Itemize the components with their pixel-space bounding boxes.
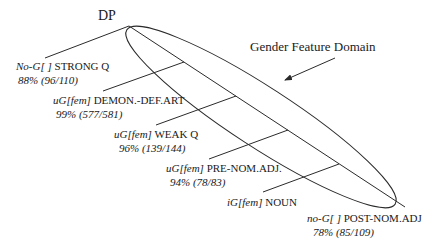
branch-pre-nom-adj bbox=[209, 130, 288, 159]
node-post-nom-adj: no-G[ ] POST-NOM.ADJ bbox=[307, 212, 422, 225]
node-noun: iG[fem] NOUN bbox=[227, 196, 297, 209]
node-category: NOUN bbox=[265, 196, 297, 208]
node-pre-nom-adj: uG[fem] PRE-NOM.ADJ. bbox=[166, 162, 282, 175]
node-feature: uG[fem] bbox=[166, 162, 204, 174]
branch-demon-def-art bbox=[103, 62, 184, 91]
node-category: WEAK Q bbox=[154, 128, 198, 140]
root-node-dp: DP bbox=[98, 8, 116, 24]
node-stat: 94% (78/83) bbox=[170, 176, 225, 189]
node-feature: uG[fem] bbox=[53, 94, 91, 106]
node-category: DEMON.-DEF.ART bbox=[94, 94, 185, 106]
branch-strong-q bbox=[45, 26, 129, 58]
node-stat: 96% (139/144) bbox=[119, 142, 185, 155]
node-category: POST-NOM.ADJ bbox=[344, 212, 422, 224]
tree-diagram bbox=[0, 0, 427, 245]
node-stat: 78% (85/109) bbox=[313, 226, 374, 239]
node-feature: uG[fem] bbox=[114, 128, 152, 140]
node-demon-def-art: uG[fem] DEMON.-DEF.ART bbox=[53, 94, 184, 107]
domain-title: Gender Feature Domain bbox=[250, 39, 376, 54]
node-category: STRONG Q bbox=[55, 60, 110, 72]
node-strong-q: No-G[ ] STRONG Q bbox=[16, 60, 109, 73]
node-stat: 99% (577/581) bbox=[56, 108, 122, 121]
node-category: PRE-NOM.ADJ. bbox=[207, 162, 282, 174]
node-feature: iG[fem] bbox=[227, 196, 262, 208]
node-feature: no-G[ ] bbox=[307, 212, 341, 224]
node-stat: 88% (96/110) bbox=[18, 74, 78, 87]
domain-pointer-arrow bbox=[285, 58, 335, 80]
node-weak-q: uG[fem] WEAK Q bbox=[114, 128, 198, 141]
node-feature: No-G[ ] bbox=[16, 60, 52, 72]
